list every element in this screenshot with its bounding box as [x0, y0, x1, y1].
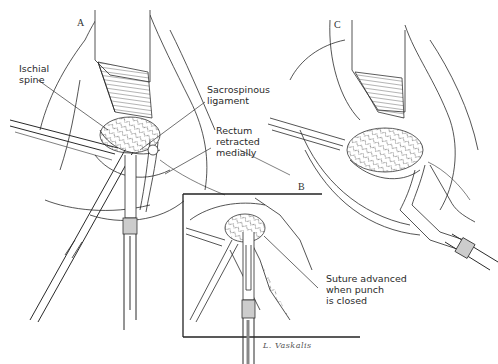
label-suture-advanced: Suture advanced when punch is closed: [326, 273, 407, 306]
panel-label-c: C: [334, 19, 341, 30]
label-ischial-spine: Ischial spine: [19, 63, 49, 85]
label-rectum-retracted: Rectum retracted medially: [216, 125, 260, 158]
panel-label-a: A: [77, 17, 84, 28]
artist-signature: L. Vaskalis: [263, 341, 312, 350]
label-sacrospinous-ligament: Sacrospinous ligament: [207, 84, 270, 106]
surgical-illustration: [0, 0, 498, 364]
panel-label-b: B: [298, 181, 305, 192]
